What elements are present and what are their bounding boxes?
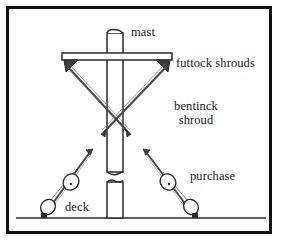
label-bentinck-line2: shroud bbox=[179, 113, 214, 127]
pulley-block-lower-right bbox=[181, 196, 202, 217]
purchase-tackle-right bbox=[143, 149, 201, 218]
label-mast: mast bbox=[131, 25, 155, 39]
label-bentinck-line1: bentinck bbox=[174, 99, 218, 113]
bentinck-shroud-crossing bbox=[115, 118, 117, 120]
label-bentinck-shroud: bentinckshroud bbox=[174, 99, 218, 127]
label-futtock-shrouds: futtock shrouds bbox=[176, 56, 255, 70]
diagram-page: mast futtock shrouds bentinckshroud purc… bbox=[0, 0, 282, 242]
label-purchase: purchase bbox=[190, 169, 235, 183]
label-deck: deck bbox=[65, 200, 89, 214]
